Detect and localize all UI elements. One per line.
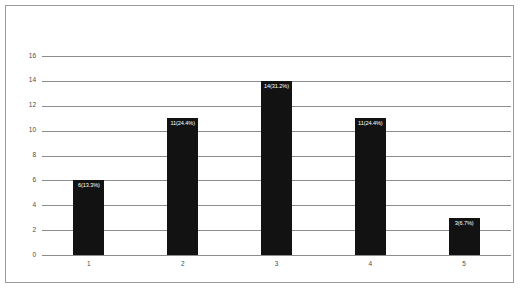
y-axis-tick-label: 10 — [12, 127, 36, 134]
gridline — [42, 255, 511, 256]
bar-value-label: 3(6.7%) — [449, 221, 480, 227]
x-axis-tick-label: 5 — [449, 261, 479, 268]
y-axis-tick-label: 14 — [12, 77, 36, 84]
y-axis-tick-label: 12 — [12, 102, 36, 109]
x-axis-tick-label: 2 — [168, 261, 198, 268]
bar[interactable]: 11(24.4%) — [355, 118, 386, 255]
bar-value-label: 11(24.4%) — [355, 121, 386, 127]
bar-value-label: 6(13.3%) — [73, 183, 104, 189]
x-axis-tick-label: 1 — [74, 261, 104, 268]
bar-value-label: 11(24.4%) — [167, 121, 198, 127]
bar[interactable]: 6(13.3%) — [73, 180, 104, 255]
x-axis-tick-labels: 12345 — [42, 261, 511, 275]
x-axis-tick-label: 3 — [262, 261, 292, 268]
y-axis-tick-label: 6 — [12, 177, 36, 184]
bar[interactable]: 14(31.2%) — [261, 81, 292, 255]
bar-value-label: 14(31.2%) — [261, 84, 292, 90]
y-axis-tick-label: 16 — [12, 53, 36, 60]
bar-chart-figure: 0246810121416 6(13.3%)11(24.4%)14(31.2%)… — [0, 0, 525, 290]
chart-frame-border: 0246810121416 6(13.3%)11(24.4%)14(31.2%)… — [5, 5, 514, 283]
y-axis-tick-label: 4 — [12, 202, 36, 209]
gridline — [42, 56, 511, 57]
y-axis-tick-labels: 0246810121416 — [12, 56, 36, 255]
y-axis-tick-label: 2 — [12, 227, 36, 234]
bar[interactable]: 3(6.7%) — [449, 218, 480, 255]
x-axis-tick-label: 4 — [355, 261, 385, 268]
y-axis-tick-label: 0 — [12, 252, 36, 259]
bar[interactable]: 11(24.4%) — [167, 118, 198, 255]
y-axis-tick-label: 8 — [12, 152, 36, 159]
plot-area: 6(13.3%)11(24.4%)14(31.2%)11(24.4%)3(6.7… — [42, 56, 511, 255]
